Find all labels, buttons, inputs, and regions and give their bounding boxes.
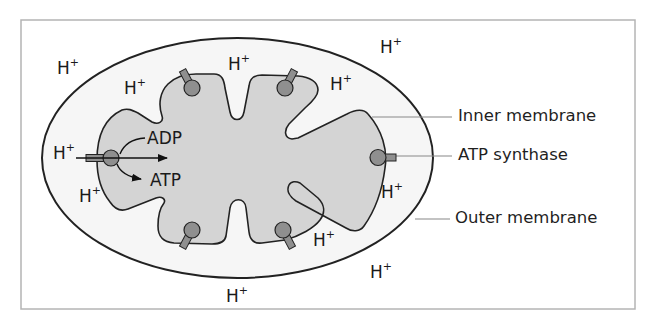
proton-label: H+ <box>381 184 403 201</box>
proton-label: H+ <box>330 76 352 93</box>
proton-label: H+ <box>370 264 392 281</box>
proton-label: H+ <box>79 188 101 205</box>
proton-label: H+ <box>53 145 75 162</box>
adp-label: ADP <box>147 130 182 147</box>
mitochondrion-diagram: ADP ATP H+ H+ H+ H+ H+ H+ H+ H+ H+ H+ H+… <box>0 0 652 325</box>
inner-membrane-label: Inner membrane <box>458 108 596 125</box>
proton-label: H+ <box>124 80 146 97</box>
proton-label: H+ <box>313 232 335 249</box>
proton-label: H+ <box>228 56 250 73</box>
proton-label: H+ <box>380 39 402 56</box>
atp-label: ATP <box>150 172 181 189</box>
atp-synthase-label: ATP synthase <box>458 147 568 164</box>
outer-membrane-label: Outer membrane <box>455 210 597 227</box>
proton-label: H+ <box>226 288 248 305</box>
proton-label: H+ <box>57 60 79 77</box>
